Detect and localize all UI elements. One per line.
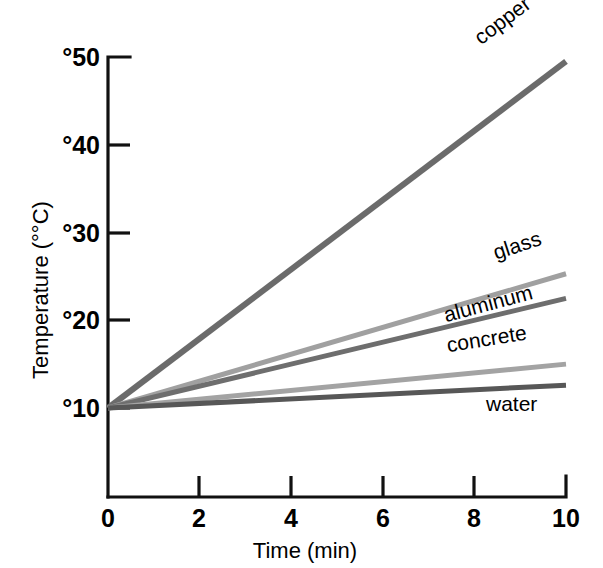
series-label-water: water	[485, 392, 537, 415]
series-label-group: copperglassaluminumconcretewater	[441, 0, 544, 415]
y-tick-label-50: °50	[62, 43, 100, 71]
y-tick-label-30: °30	[62, 219, 100, 247]
x-axis-title: Time (min)	[253, 538, 357, 563]
y-tick-label-10: °10	[62, 394, 100, 422]
line-chart: °50 °40 °30 °20 °10 0 2 4 6 8 10 Time (m…	[0, 0, 603, 568]
y-axis	[108, 57, 130, 497]
x-tick-label-10: 10	[552, 504, 580, 532]
series-label-copper: copper	[470, 0, 535, 49]
x-tick-label-8: 8	[467, 504, 481, 532]
x-tick-label-0: 0	[101, 504, 115, 532]
x-tick-label-4: 4	[284, 504, 298, 532]
y-axis-title: Temperature (°°C)	[28, 201, 53, 379]
series-group	[108, 61, 566, 408]
series-line-copper	[108, 61, 566, 408]
series-label-glass: glass	[490, 227, 544, 264]
x-tick-label-2: 2	[192, 504, 206, 532]
x-axis	[108, 476, 566, 497]
chart-figure: °50 °40 °30 °20 °10 0 2 4 6 8 10 Time (m…	[0, 0, 603, 568]
x-tick-label-6: 6	[376, 504, 390, 532]
y-tick-label-40: °40	[62, 131, 100, 159]
y-tick-label-20: °20	[62, 306, 100, 334]
